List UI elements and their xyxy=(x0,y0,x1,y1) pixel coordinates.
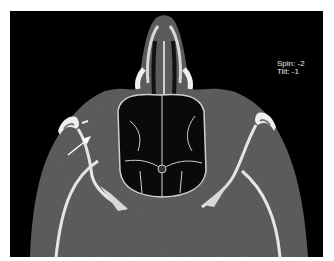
arrow-icon xyxy=(10,11,323,257)
ct-scan-image: Spin: -2 Tilt: -1 xyxy=(10,11,323,257)
orientation-overlay: Spin: -2 Tilt: -1 xyxy=(277,60,305,76)
tilt-readout: Tilt: -1 xyxy=(277,68,305,76)
